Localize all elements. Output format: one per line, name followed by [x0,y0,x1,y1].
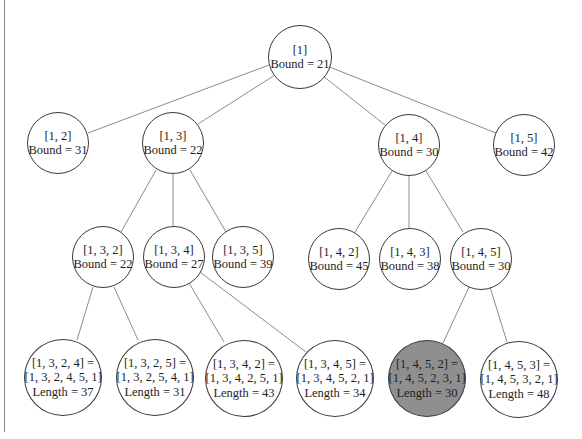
node-bound: Bound = 22 [143,143,202,157]
leaf-1-3-2-5: [1, 3, 2, 5] = [1, 3, 2, 5, 4, 1] Length… [116,339,194,416]
leaf-1-3-2-4: [1, 3, 2, 4] = [1, 3, 2, 4, 5, 1] Length… [24,339,102,416]
leaf-length: Length = 37 [32,385,93,399]
leaf-tour: [1, 3, 4, 2, 5, 1] [205,371,282,385]
leaf-1-4-5-2-optimal: [1, 4, 5, 2] = [1, 4, 5, 2, 3, 1] Length… [388,340,466,417]
node-bound: Bound = 42 [494,145,553,159]
leaf-tour: [1, 3, 2, 5, 4, 1] [116,370,193,384]
leaf-tour: [1, 3, 2, 4, 5, 1] [24,370,101,384]
node-1-3-4: [1, 3, 4] Bound = 27 [143,226,205,288]
node-path: [1, 4] [395,131,422,145]
leaf-tour: [1, 4, 5, 3, 2, 1] [480,372,557,386]
node-bound: Bound = 30 [451,259,510,273]
leaf-path: [1, 3, 4, 2] = [213,357,275,371]
leaf-length: Length = 34 [304,386,365,400]
node-1-3-2: [1, 3, 2] Bound = 22 [72,226,134,288]
edge-n145-n1452 [443,287,469,343]
node-path: [1, 2] [44,129,71,143]
node-bound: Bound = 38 [380,259,439,273]
edge-n13-n132 [121,170,156,232]
node-bound: Bound = 31 [28,143,87,157]
node-root: [1] Bound = 21 [268,25,332,89]
edge-n13-n135 [190,170,226,232]
leaf-length: Length = 31 [124,385,185,399]
node-bound: Bound = 22 [73,257,132,271]
node-1-4-2: [1, 4, 2] Bound = 45 [308,228,370,290]
node-1-3: [1, 3] Bound = 22 [142,112,204,174]
node-bound: Bound = 45 [309,259,368,273]
leaf-path: [1, 4, 5, 3] = [488,358,550,372]
leaf-length: Length = 43 [213,386,274,400]
node-1-3-5: [1, 3, 5] Bound = 39 [212,226,274,288]
node-1-4-3: [1, 4, 3] Bound = 38 [379,228,441,290]
node-bound: Bound = 30 [379,145,438,159]
node-bound: Bound = 39 [213,257,272,271]
leaf-path: [1, 3, 2, 4] = [32,356,94,370]
leaf-1-3-4-2: [1, 3, 4, 2] = [1, 3, 4, 2, 5, 1] Length… [205,340,283,417]
edge-n145-n1453 [490,287,507,342]
node-path: [1] [293,43,308,57]
edge-n14-n142 [355,171,392,232]
node-1-5: [1, 5] Bound = 42 [493,114,555,176]
node-path: [1, 3, 5] [223,243,263,257]
edge-root-n14 [318,72,385,125]
node-path: [1, 4, 2] [319,245,359,259]
node-bound: Bound = 27 [144,257,203,271]
node-path: [1, 4, 3] [390,245,430,259]
leaf-length: Length = 30 [396,386,457,400]
node-path: [1, 4, 5] [461,245,501,259]
leaf-path: [1, 4, 5, 2] = [396,357,458,371]
leaf-1-3-4-5: [1, 3, 4, 5] = [1, 3, 4, 5, 2, 1] Length… [296,340,374,417]
leaf-tour: [1, 4, 5, 2, 3, 1] [388,371,465,385]
node-path: [1, 3] [159,129,186,143]
node-bound: Bound = 21 [270,57,329,71]
edge-n132-n1324 [77,287,93,340]
edge-n134-n1342 [189,283,224,342]
edge-n132-n1325 [114,287,138,340]
leaf-path: [1, 3, 4, 5] = [304,357,366,371]
edge-n14-n145 [426,171,463,232]
edge-root-n13 [198,75,275,124]
node-path: [1, 3, 2] [83,243,123,257]
node-1-4: [1, 4] Bound = 30 [378,114,440,176]
leaf-path: [1, 3, 2, 5] = [124,356,186,370]
node-1-2: [1, 2] Bound = 31 [27,112,89,174]
node-path: [1, 3, 4] [154,243,194,257]
leaf-1-4-5-3: [1, 4, 5, 3] = [1, 4, 5, 3, 2, 1] Length… [480,341,558,418]
node-path: [1, 5] [510,131,537,145]
leaf-tour: [1, 3, 4, 5, 2, 1] [296,371,373,385]
leaf-length: Length = 48 [488,387,549,401]
node-1-4-5: [1, 4, 5] Bound = 30 [450,228,512,290]
